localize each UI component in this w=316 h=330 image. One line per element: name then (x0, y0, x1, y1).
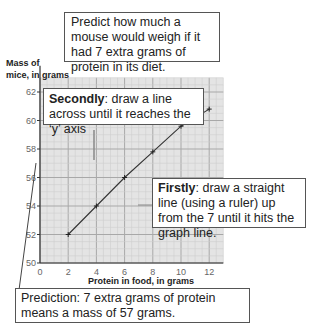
x-tick-label: 2 (66, 267, 71, 277)
y-tick-label: 62 (26, 87, 36, 97)
secondly-box: Secondly: draw a line across until it re… (43, 88, 204, 125)
x-axis-label: Protein in food, in grams (88, 276, 194, 286)
y-axis-label-line2: mice, in grams (6, 69, 69, 81)
y-tick-label: 52 (26, 230, 36, 240)
prediction-text: Prediction: 7 extra grams of protein mea… (21, 291, 216, 320)
prediction-box: Prediction: 7 extra grams of protein mea… (15, 288, 250, 323)
firstly-box: Firstly: draw a straight line (using a r… (152, 178, 306, 228)
x-tick-label: 12 (204, 267, 214, 277)
secondly-label: Secondly (49, 92, 105, 106)
y-axis-label: Mass of mice, in grams (6, 57, 69, 81)
firstly-label: Firstly (158, 181, 196, 195)
y-tick-label: 58 (26, 144, 36, 154)
y-axis-label-line1: Mass of (6, 57, 69, 69)
question-box: Predict how much a mouse would weigh if … (64, 12, 220, 62)
y-tick-label: 50 (26, 258, 36, 268)
y-tick-label: 60 (26, 116, 36, 126)
x-tick-label: 0 (37, 267, 42, 277)
